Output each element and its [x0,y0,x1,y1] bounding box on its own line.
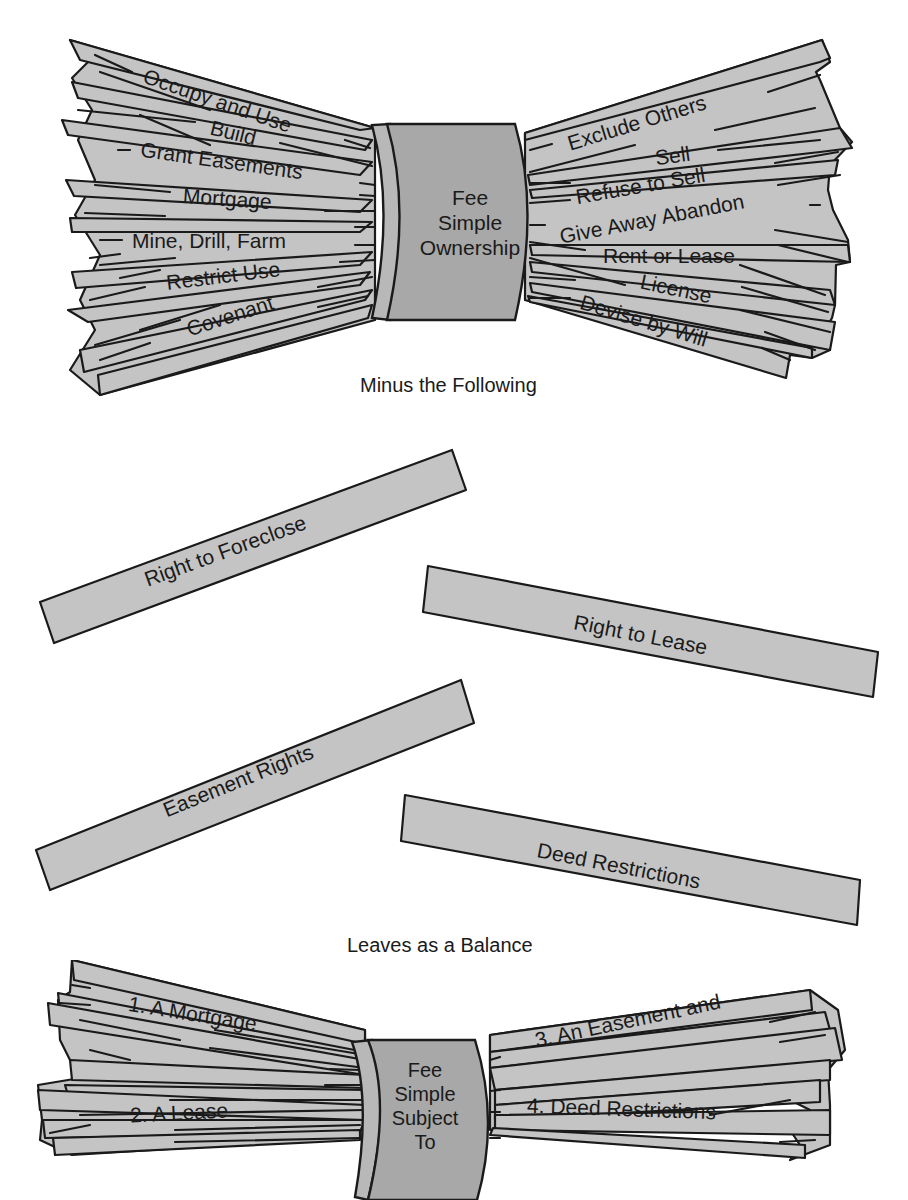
right-label-mine-drill-farm: Mine, Drill, Farm [132,230,286,251]
center-label-line: Fee [365,1058,485,1082]
center-label-line: Simple [400,210,540,235]
removed-sticks-graphic [0,440,908,980]
label-a-lease: 2. A Lease [130,1099,229,1125]
center-label-line: Simple [365,1082,485,1106]
center-label-line: Fee [400,185,540,210]
bottom-center-label: Fee Simple Subject To [365,1058,485,1154]
center-label-line: Ownership [400,235,540,260]
top-center-label: Fee Simple Ownership [400,185,540,260]
center-label-line: To [365,1130,485,1154]
center-label-line: Subject [365,1106,485,1130]
right-label-rent-or-lease: Rent or Lease [603,245,735,266]
caption-leaves-as-a-balance: Leaves as a Balance [347,934,533,957]
caption-minus-the-following: Minus the Following [360,374,537,397]
right-label-sell: Sell [654,143,692,169]
